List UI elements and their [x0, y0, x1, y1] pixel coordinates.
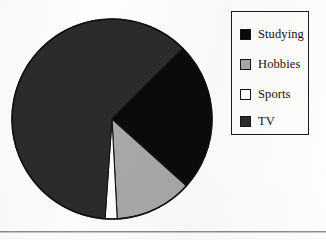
legend-swatch-hobbies-icon	[240, 59, 251, 70]
legend-item-tv[interactable]: TV	[240, 113, 275, 129]
legend-label-hobbies: Hobbies	[258, 58, 300, 71]
legend-label-studying: Studying	[258, 28, 304, 41]
page-bottom-rule-shadow	[0, 232, 326, 233]
legend-swatch-sports-icon	[240, 89, 251, 100]
figure-page: Studying Hobbies Sports TV	[0, 0, 326, 240]
legend-item-hobbies[interactable]: Hobbies	[240, 56, 300, 72]
legend-swatch-studying-icon	[240, 29, 251, 40]
legend-item-studying[interactable]: Studying	[240, 26, 304, 42]
pie-chart-figure: Studying Hobbies Sports TV	[0, 0, 326, 228]
pie-slices-group	[12, 19, 212, 219]
legend-swatch-tv-icon	[240, 116, 251, 127]
legend-label-tv: TV	[258, 115, 275, 128]
legend-item-sports[interactable]: Sports	[240, 86, 291, 102]
legend-box: Studying Hobbies Sports TV	[231, 11, 309, 135]
legend-label-sports: Sports	[258, 88, 291, 101]
